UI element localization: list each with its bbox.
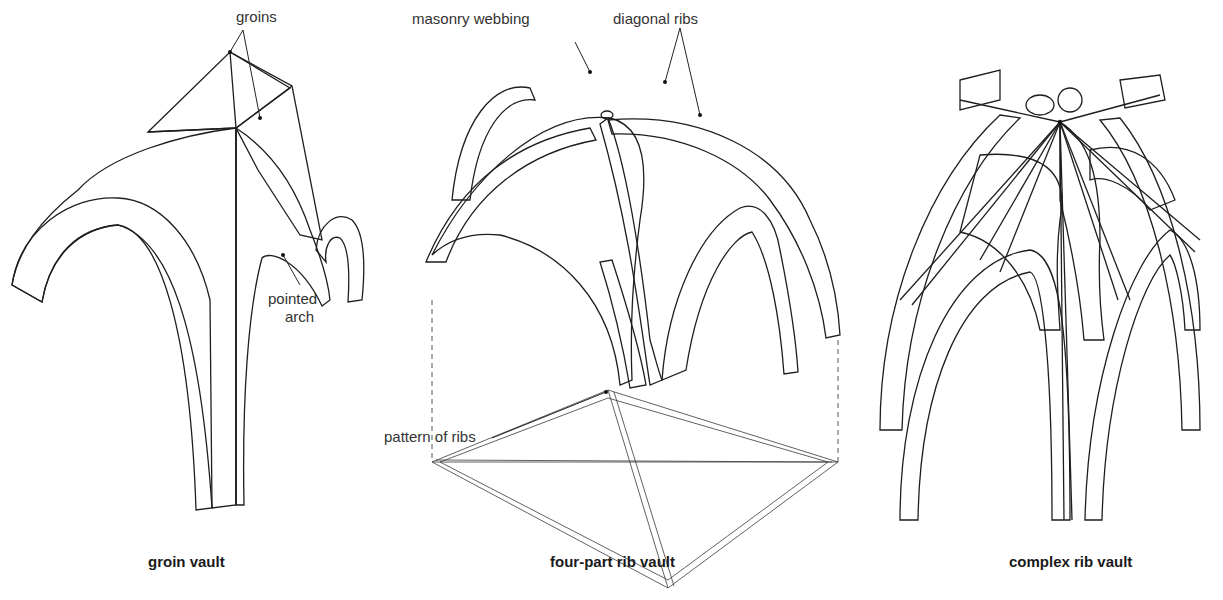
caption-four-part-rib-vault: four-part rib vault: [550, 553, 675, 570]
label-pointed: pointed: [268, 290, 317, 307]
label-groins: groins: [236, 8, 277, 25]
four-part-rib-vault-illustration: [426, 28, 840, 588]
vault-diagram: groins pointed arch groin vault: [0, 0, 1223, 600]
label-pattern-of-ribs: pattern of ribs: [384, 428, 476, 445]
caption-complex-rib-vault: complex rib vault: [1009, 553, 1132, 570]
groin-vault-illustration: [12, 30, 364, 510]
label-diagonal-ribs: diagonal ribs: [613, 10, 698, 27]
label-masonry-webbing: masonry webbing: [412, 10, 530, 27]
complex-rib-vault-illustration: [880, 70, 1200, 520]
label-arch: arch: [285, 308, 314, 325]
caption-groin-vault: groin vault: [148, 553, 225, 570]
